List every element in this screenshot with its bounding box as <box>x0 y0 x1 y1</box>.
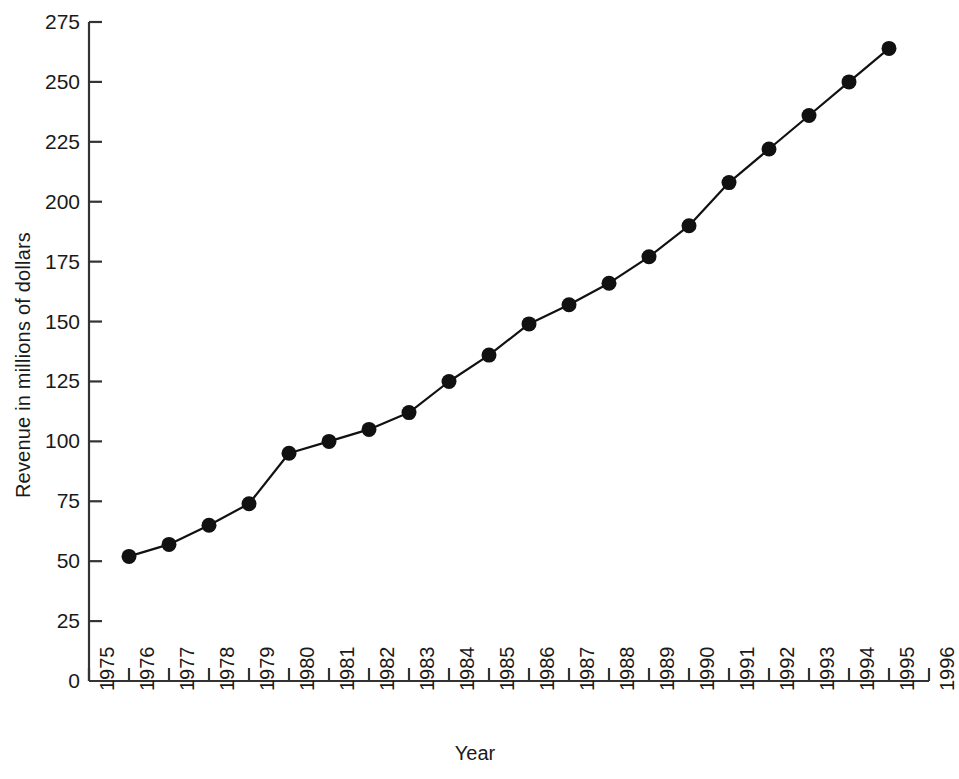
data-point <box>162 537 177 552</box>
x-axis-tick-label: 1975 <box>96 647 119 692</box>
x-axis-tick-label: 1995 <box>896 647 919 692</box>
y-axis-ticks <box>89 22 102 621</box>
data-point <box>242 496 257 511</box>
x-axis-tick-label: 1996 <box>936 647 959 692</box>
data-point <box>482 348 497 363</box>
data-point <box>882 41 897 56</box>
data-point <box>202 518 217 533</box>
x-axis-tick-label: 1979 <box>256 647 279 692</box>
data-point <box>642 249 657 264</box>
y-axis-tick-label: 25 <box>20 609 80 633</box>
x-axis-tick-label: 1976 <box>136 647 159 692</box>
data-point <box>402 405 417 420</box>
x-axis-tick-label: 1994 <box>856 647 879 692</box>
y-axis-tick-label: 225 <box>20 130 80 154</box>
x-axis-tick-label: 1990 <box>696 647 719 692</box>
x-axis-tick-label: 1987 <box>576 647 599 692</box>
y-axis-tick-label: 0 <box>20 669 80 693</box>
x-axis-tick-label: 1981 <box>336 647 359 692</box>
data-point <box>762 142 777 157</box>
data-point <box>522 316 537 331</box>
x-axis-tick-label: 1986 <box>536 647 559 692</box>
x-axis-title-text: Year <box>455 742 495 765</box>
data-point <box>322 434 337 449</box>
data-point <box>842 74 857 89</box>
x-axis-title: Year <box>0 742 950 765</box>
x-axis-tick-label: 1989 <box>656 647 679 692</box>
y-axis-tick-label: 50 <box>20 549 80 573</box>
x-axis-tick-label: 1991 <box>736 647 759 692</box>
y-axis-tick-label: 275 <box>20 10 80 34</box>
x-axis-tick-label: 1978 <box>216 647 239 692</box>
data-point <box>682 218 697 233</box>
revenue-series-line <box>129 48 889 556</box>
x-axis-tick-label: 1993 <box>816 647 839 692</box>
data-point <box>602 276 617 291</box>
revenue-series-markers <box>122 41 897 564</box>
data-point <box>442 374 457 389</box>
x-axis-tick-label: 1985 <box>496 647 519 692</box>
x-axis-tick-label: 1980 <box>296 647 319 692</box>
data-point <box>722 175 737 190</box>
x-axis-tick-label: 1983 <box>416 647 439 692</box>
y-axis-title: Revenue in millions of dollars <box>7 200 39 530</box>
y-axis-title-text: Revenue in millions of dollars <box>12 232 35 498</box>
x-axis-tick-label: 1992 <box>776 647 799 692</box>
data-point <box>562 297 577 312</box>
y-axis-tick-label: 250 <box>20 70 80 94</box>
data-point <box>282 446 297 461</box>
x-axis-tick-label: 1977 <box>176 647 199 692</box>
x-axis-tick-label: 1988 <box>616 647 639 692</box>
data-point <box>802 108 817 123</box>
x-axis-tick-label: 1982 <box>376 647 399 692</box>
data-point <box>122 549 137 564</box>
data-point <box>362 422 377 437</box>
x-axis-tick-label: 1984 <box>456 647 479 692</box>
